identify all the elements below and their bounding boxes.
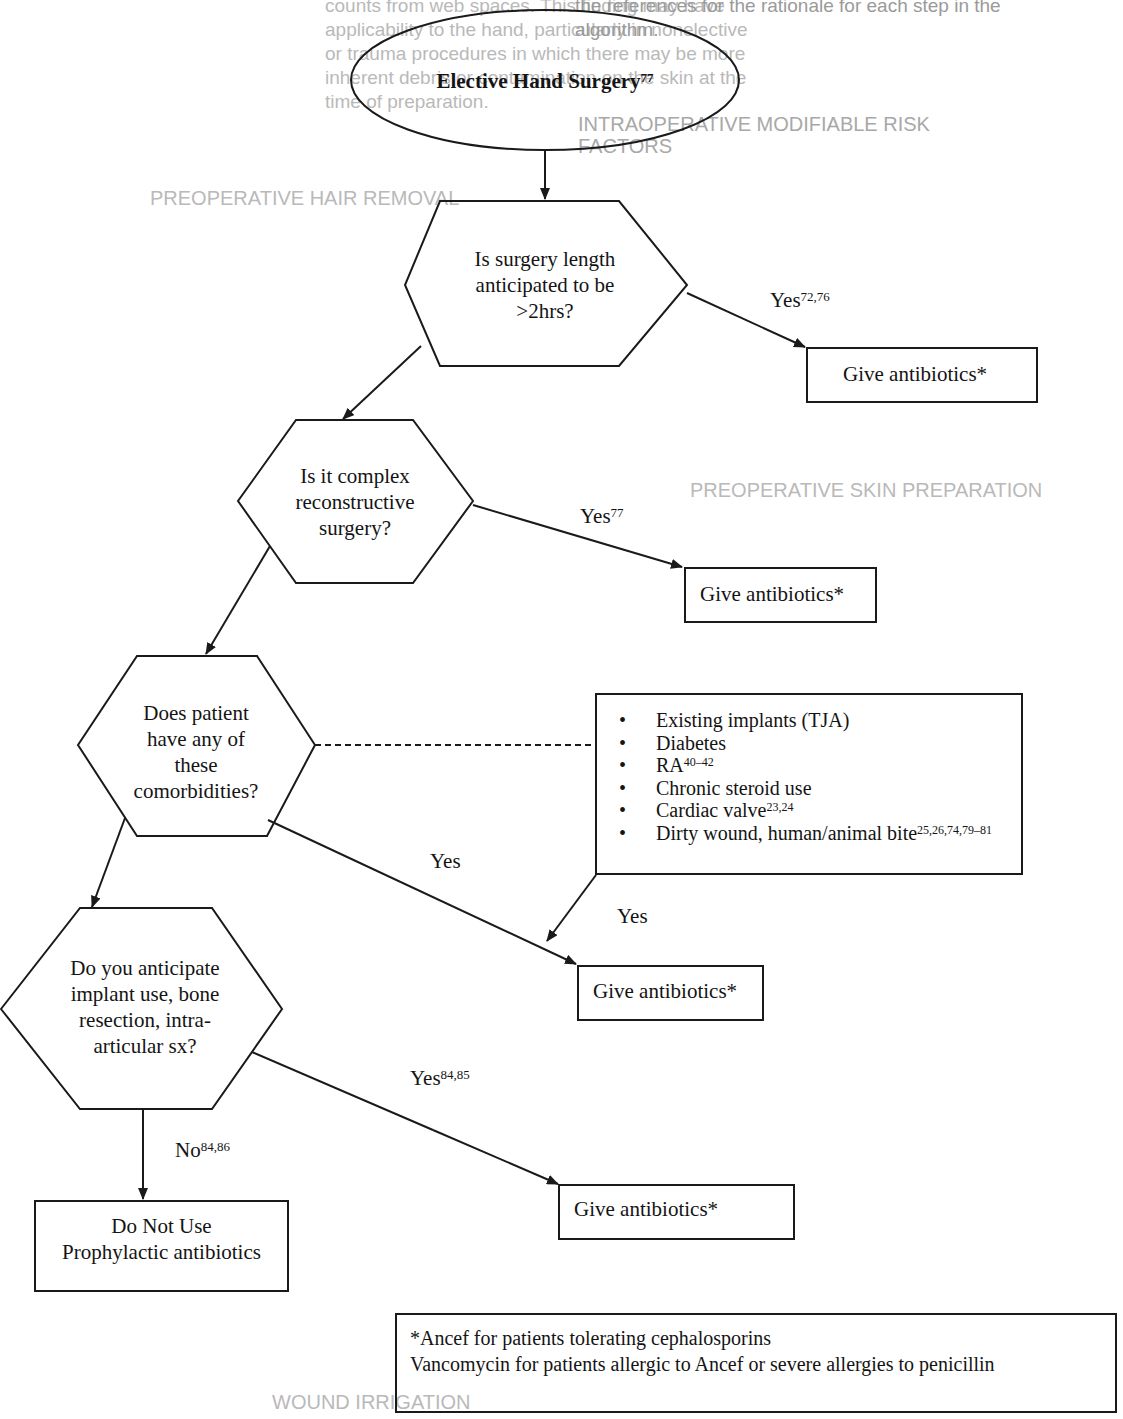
q3-line: comorbidities? <box>96 778 296 804</box>
yes-ref: 84,85 <box>441 1067 470 1082</box>
connector-q4-yes <box>252 1052 433 1130</box>
q1-line: >2hrs? <box>420 298 670 324</box>
connector-q4-yes-2 <box>433 1130 558 1184</box>
comorbidity-item: Existing implants (TJA) <box>597 709 1021 732</box>
q3-line: these <box>96 752 296 778</box>
comorbidity-item: Chronic steroid use <box>597 777 1021 800</box>
yes-text: Yes <box>770 288 801 312</box>
footnote-line: Vancomycin for patients allergic to Ance… <box>410 1351 995 1377</box>
action-give-antibiotics-1: Give antibiotics* <box>806 347 1038 403</box>
comorbidity-text: Diabetes <box>656 732 726 754</box>
q4-no-label: No84,86 <box>175 1137 230 1163</box>
yes-ref: 77 <box>611 505 624 520</box>
q1-label: Is surgery length anticipated to be >2hr… <box>420 246 670 324</box>
action-give-antibiotics-2: Give antibiotics* <box>684 567 877 623</box>
q3-line: Does patient <box>96 700 296 726</box>
start-ref: 77 <box>641 70 654 85</box>
start-text: Elective Hand Surgery <box>436 69 640 93</box>
comorb-yes-label: Yes <box>617 903 648 929</box>
connector-q1-no <box>343 346 421 419</box>
footnote-box: *Ancef for patients tolerating cephalosp… <box>395 1313 1117 1413</box>
action-give-antibiotics-3: Give antibiotics* <box>577 965 764 1021</box>
action-text: Give antibiotics* <box>593 978 737 1004</box>
comorbidity-item: Cardiac valve23,24 <box>597 799 1021 822</box>
yes-text: Yes <box>410 1066 441 1090</box>
comorbidity-ref: 40–42 <box>684 755 714 769</box>
q1-yes-label: Yes72,76 <box>770 287 830 313</box>
comorbidities-list-box: Existing implants (TJA) Diabetes RA40–42… <box>595 693 1023 875</box>
end-text: Do Not Use Prophylactic antibiotics <box>36 1213 287 1265</box>
q1-line: Is surgery length <box>420 246 670 272</box>
footnote-text: *Ancef for patients tolerating cephalosp… <box>410 1325 995 1377</box>
comorbidity-item: Diabetes <box>597 732 1021 755</box>
comorbidity-text: Cardiac valve <box>656 799 767 821</box>
connector-q3-yes <box>268 820 576 964</box>
yes-text: Yes <box>617 904 648 928</box>
connector-q3-no <box>92 818 125 907</box>
comorbidity-ref: 25,26,74,79–81 <box>917 823 992 837</box>
comorbidities-list: Existing implants (TJA) Diabetes RA40–42… <box>597 709 1021 844</box>
comorbidity-text: Dirty wound, human/animal bite <box>656 822 917 844</box>
end-do-not-use-antibiotics: Do Not Use Prophylactic antibiotics <box>34 1200 289 1292</box>
action-text: Give antibiotics* <box>700 581 844 607</box>
q3-line: have any of <box>96 726 296 752</box>
footnote-line: *Ancef for patients tolerating cephalosp… <box>410 1325 995 1351</box>
q4-line: articular sx? <box>40 1033 250 1059</box>
q4-yes-label: Yes84,85 <box>410 1065 470 1091</box>
q4-label: Do you anticipate implant use, bone rese… <box>40 955 250 1059</box>
q4-line: Do you anticipate <box>40 955 250 981</box>
end-line: Prophylactic antibiotics <box>36 1239 287 1265</box>
comorbidity-text: RA <box>656 754 684 776</box>
yes-ref: 72,76 <box>801 289 830 304</box>
q2-label: Is it complex reconstructive surgery? <box>255 463 455 541</box>
connector-q2-no <box>206 546 270 654</box>
q2-line: surgery? <box>255 515 455 541</box>
action-give-antibiotics-4: Give antibiotics* <box>558 1184 795 1240</box>
no-text: No <box>175 1138 201 1162</box>
q3-label: Does patient have any of these comorbidi… <box>96 700 296 804</box>
comorbidity-item: RA40–42 <box>597 754 1021 777</box>
action-text: Give antibiotics* <box>574 1196 718 1222</box>
comorbidity-item: Dirty wound, human/animal bite25,26,74,7… <box>597 822 1021 845</box>
comorbidity-ref: 23,24 <box>767 800 794 814</box>
action-text: Give antibiotics* <box>843 361 987 387</box>
q2-yes-label: Yes77 <box>580 503 624 529</box>
yes-text: Yes <box>430 849 461 873</box>
q3-yes-label: Yes <box>430 848 461 874</box>
connector-comorb-yes <box>547 875 596 941</box>
q2-line: Is it complex <box>255 463 455 489</box>
start-node-label: Elective Hand Surgery77 <box>370 68 720 94</box>
q2-line: reconstructive <box>255 489 455 515</box>
connector-q2-yes <box>473 505 682 567</box>
no-ref: 84,86 <box>201 1139 230 1154</box>
end-line: Do Not Use <box>36 1213 287 1239</box>
q4-line: implant use, bone <box>40 981 250 1007</box>
yes-text: Yes <box>580 504 611 528</box>
q1-line: anticipated to be <box>420 272 670 298</box>
comorbidity-text: Existing implants (TJA) <box>656 709 849 731</box>
comorbidity-text: Chronic steroid use <box>656 777 812 799</box>
q4-line: resection, intra- <box>40 1007 250 1033</box>
